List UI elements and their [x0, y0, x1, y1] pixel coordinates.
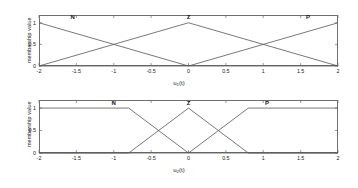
y-tick-label: 0.5 — [17, 127, 36, 133]
x-tick-label: 0.5 — [211, 68, 241, 74]
fuzzy-set-label-z: Z — [177, 14, 201, 20]
x-tick-label: 1 — [248, 155, 278, 161]
y-tick-label: 0 — [17, 63, 36, 69]
x-tick-label: 1.5 — [286, 68, 316, 74]
x-tick-label: 1 — [248, 68, 278, 74]
x-axis-label-1: u1(t) — [0, 80, 358, 86]
x-tick-label: 0 — [174, 155, 204, 161]
membership-function-figure: membership value -2-1.5-1-0.500.511.52 0… — [0, 0, 358, 188]
x-tick-label: 2 — [323, 155, 353, 161]
membership-curve-p — [39, 23, 338, 66]
membership-plot-u1: membership value -2-1.5-1-0.500.511.52 0… — [0, 0, 358, 96]
x-tick-label: -0.5 — [136, 68, 166, 74]
membership-curve-n — [39, 23, 338, 66]
membership-curve-n — [39, 108, 338, 153]
x-tick-label: 0 — [174, 68, 204, 74]
x-tick-label: -1.5 — [61, 155, 91, 161]
fuzzy-set-label-n: N — [102, 100, 126, 106]
x-tick-label: -1.5 — [61, 68, 91, 74]
x-tick-label: 1.5 — [286, 155, 316, 161]
x-axis-label-2: u2(t) — [0, 167, 358, 173]
x-tick-label: 2 — [323, 68, 353, 74]
membership-plot-u2: membership value -2-1.5-1-0.500.511.52 0… — [0, 96, 358, 188]
y-tick-label: 0.5 — [17, 41, 36, 47]
x-tick-label: -0.5 — [136, 155, 166, 161]
membership-curve-z — [39, 108, 338, 153]
x-tick-label: -1 — [99, 155, 129, 161]
x-axis-label-2-sub: 2 — [177, 169, 179, 174]
x-axis-label-1-tail: (t) — [179, 80, 185, 86]
y-tick-label: 1 — [17, 20, 36, 26]
y-tick-label: 1 — [17, 105, 36, 111]
x-axis-label-2-tail: (t) — [179, 167, 185, 173]
plot-lines-2 — [0, 96, 358, 188]
membership-curve-z — [39, 23, 338, 66]
fuzzy-set-label-z: Z — [177, 100, 201, 106]
x-tick-label: -1 — [99, 68, 129, 74]
x-tick-label: -2 — [24, 68, 54, 74]
membership-curve-p — [39, 108, 338, 153]
y-tick-label: 0 — [17, 150, 36, 156]
x-tick-label: 0.5 — [211, 155, 241, 161]
x-tick-label: -2 — [24, 155, 54, 161]
x-axis-label-1-sub: 1 — [177, 82, 179, 87]
fuzzy-set-label-p: P — [296, 14, 320, 20]
fuzzy-set-label-n: N — [61, 14, 85, 20]
fuzzy-set-label-p: P — [255, 100, 279, 106]
